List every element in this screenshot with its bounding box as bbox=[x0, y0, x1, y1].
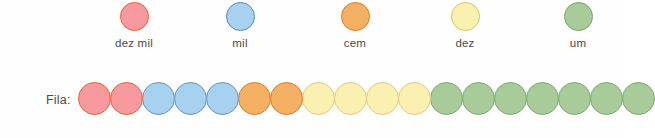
bead bbox=[334, 82, 367, 115]
bead bbox=[398, 82, 431, 115]
legend-swatch-icon bbox=[226, 2, 255, 31]
legend-swatch-icon bbox=[564, 2, 593, 31]
legend-item-label: dez mil bbox=[89, 37, 179, 50]
bead bbox=[366, 82, 399, 115]
bead bbox=[622, 82, 655, 115]
fila-bead-strip bbox=[78, 80, 654, 116]
legend-item-cem: cem bbox=[310, 0, 400, 50]
legend-swatch-icon bbox=[451, 2, 480, 31]
legend-item-dez: dez bbox=[420, 0, 510, 50]
bead bbox=[206, 82, 239, 115]
legend-item-dez-mil: dez mil bbox=[89, 0, 179, 50]
legend-item-label: um bbox=[533, 37, 623, 50]
bead bbox=[238, 82, 271, 115]
bead bbox=[302, 82, 335, 115]
bead bbox=[78, 82, 111, 115]
legend-swatch-icon bbox=[341, 2, 370, 31]
bead bbox=[270, 82, 303, 115]
bead bbox=[462, 82, 495, 115]
bead bbox=[526, 82, 559, 115]
legend-item-label: cem bbox=[310, 37, 400, 50]
bead bbox=[558, 82, 591, 115]
legend-item-mil: mil bbox=[195, 0, 285, 50]
fila-label: Fila: bbox=[46, 93, 71, 107]
bead bbox=[590, 82, 623, 115]
bead bbox=[110, 82, 143, 115]
legend: dez milmilcemdezum bbox=[0, 0, 624, 58]
bead bbox=[494, 82, 527, 115]
legend-swatch-icon bbox=[120, 2, 149, 31]
bead bbox=[142, 82, 175, 115]
legend-item-um: um bbox=[533, 0, 623, 50]
legend-item-label: mil bbox=[195, 37, 285, 50]
bead bbox=[430, 82, 463, 115]
bead bbox=[174, 82, 207, 115]
legend-item-label: dez bbox=[420, 37, 510, 50]
fila-row: Fila: bbox=[0, 78, 624, 118]
